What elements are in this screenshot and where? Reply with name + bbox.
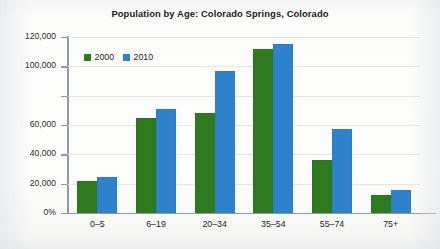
chart-title: Population by Age: Colorado Springs, Col… xyxy=(0,8,440,19)
bar-2010-55–74 xyxy=(332,129,352,213)
gridline xyxy=(68,37,420,38)
gridline xyxy=(68,96,420,97)
legend-swatch-icon xyxy=(123,54,130,61)
y-axis-tick xyxy=(61,96,68,97)
y-axis-label: 20,000 xyxy=(0,178,56,188)
legend-swatch-icon xyxy=(84,54,91,61)
y-axis-label: 60,000 xyxy=(0,119,56,129)
bar-2010-6–19 xyxy=(156,109,176,213)
chart-legend: 20002010 xyxy=(84,52,153,62)
bar-group xyxy=(136,37,176,213)
y-axis-tick xyxy=(61,66,68,67)
x-axis-label: 75+ xyxy=(356,219,426,229)
y-axis-label: 100,000 xyxy=(0,60,56,70)
legend-label: 2010 xyxy=(134,52,154,62)
y-axis-tick xyxy=(61,213,68,214)
bar-2000-6–19 xyxy=(136,118,156,213)
y-axis-tick xyxy=(61,184,68,185)
bar-2000-75+ xyxy=(371,195,391,213)
bar-2000-0–5 xyxy=(77,181,97,213)
y-axis-tick xyxy=(61,154,68,155)
chart-figure: Population by Age: Colorado Springs, Col… xyxy=(0,0,440,249)
gridline xyxy=(68,66,420,67)
bar-2010-35–54 xyxy=(273,44,293,213)
legend-item-2010: 2010 xyxy=(123,52,153,62)
y-axis-label: 40,000 xyxy=(0,148,56,158)
y-axis-tick xyxy=(61,125,68,126)
bar-2010-75+ xyxy=(391,190,411,213)
legend-item-2000: 2000 xyxy=(84,52,114,62)
bar-group xyxy=(195,37,235,213)
bar-group xyxy=(371,37,411,213)
bar-group xyxy=(253,37,293,213)
gridline xyxy=(68,184,420,185)
bar-2000-55–74 xyxy=(312,160,332,213)
bar-2000-20–34 xyxy=(195,113,215,213)
bar-group xyxy=(312,37,352,213)
bar-2010-0–5 xyxy=(97,177,117,213)
y-axis-tick xyxy=(61,37,68,38)
gridline xyxy=(68,154,420,155)
gridline xyxy=(68,125,420,126)
bar-2000-35–54 xyxy=(253,49,273,213)
bar-group xyxy=(77,37,117,213)
legend-label: 2000 xyxy=(95,52,115,62)
y-axis-label: 0% xyxy=(0,207,56,217)
bar-2010-20–34 xyxy=(215,71,235,213)
plot-area xyxy=(68,37,420,213)
y-axis-label: 120,000 xyxy=(0,31,56,41)
